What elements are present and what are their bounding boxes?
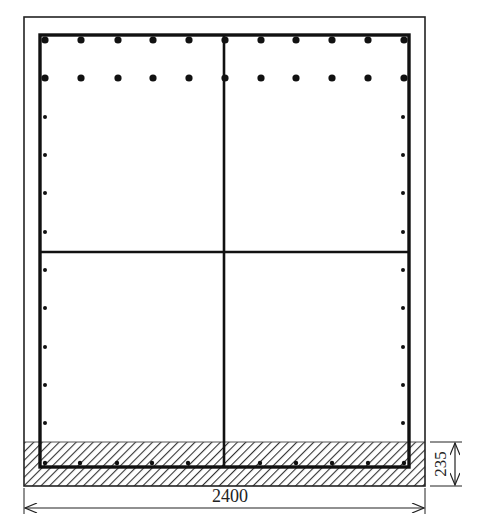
width-dimension-label: 2400: [212, 486, 248, 506]
rebar-dot: [401, 306, 405, 310]
rebar-dot: [401, 115, 405, 119]
rebar-dot: [258, 461, 262, 465]
second-row-rebars: [41, 74, 407, 81]
rebar-dot: [221, 74, 228, 81]
rebar-dot: [77, 36, 84, 43]
rebar-dot: [364, 36, 371, 43]
rebar-dot: [330, 461, 334, 465]
top-row-rebars: [41, 36, 407, 43]
rebar-dot: [78, 461, 82, 465]
rebar-dot: [43, 191, 47, 195]
rebar-dot: [328, 36, 335, 43]
rebar-dot: [149, 36, 156, 43]
rebar-dot: [400, 36, 407, 43]
rebar-dot: [150, 461, 154, 465]
rebar-dot: [401, 383, 405, 387]
rebar-dot: [366, 461, 370, 465]
rebar-dot: [43, 383, 47, 387]
rebar-dot: [328, 74, 335, 81]
rebar-dot: [186, 461, 190, 465]
rebar-dot: [294, 461, 298, 465]
rebar-dot: [221, 36, 228, 43]
rebar-dot: [115, 461, 119, 465]
rebar-dot: [43, 115, 47, 119]
rebar-dot: [41, 36, 48, 43]
rebar-dot: [43, 306, 47, 310]
rebar-dot: [185, 36, 192, 43]
rebar-dot: [149, 74, 156, 81]
left-side-rebars: [43, 115, 47, 425]
rebar-dot: [402, 461, 406, 465]
rebar-dot: [77, 74, 84, 81]
rebar-dot: [43, 230, 47, 234]
rebar-dot: [114, 74, 121, 81]
rebar-dot: [43, 268, 47, 272]
rebar-dot: [41, 74, 48, 81]
rebar-dot: [257, 36, 264, 43]
rebar-dot: [185, 74, 192, 81]
rebar-dot: [401, 268, 405, 272]
rebar-dot: [114, 36, 121, 43]
depth-dimension-label: 235: [431, 451, 450, 477]
rebar-dot: [43, 461, 47, 465]
rebar-dot: [401, 421, 405, 425]
rebar-dot: [43, 345, 47, 349]
rebar-dot: [401, 191, 405, 195]
rebar-dot: [43, 153, 47, 157]
rebar-dot: [292, 36, 299, 43]
rebar-dot: [364, 74, 371, 81]
rebar-dot: [401, 230, 405, 234]
rebar-dot: [401, 345, 405, 349]
rebar-dot: [292, 74, 299, 81]
rebar-dot: [257, 74, 264, 81]
cross-section-diagram: 2400 235: [0, 0, 480, 530]
right-side-rebars: [401, 115, 405, 425]
rebar-dot: [401, 153, 405, 157]
rebar-dot: [43, 421, 47, 425]
rebar-dot: [400, 74, 407, 81]
